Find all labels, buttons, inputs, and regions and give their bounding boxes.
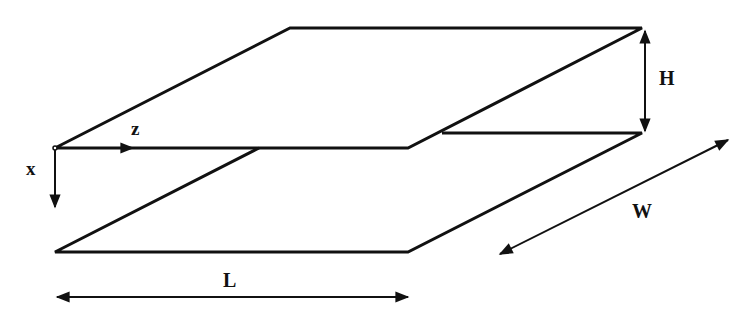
- parallel-plate-diagram: z x H W L: [0, 0, 755, 314]
- dimension-arrows: [57, 31, 728, 297]
- height-label: H: [659, 67, 675, 90]
- x-axis-label: x: [26, 158, 36, 180]
- width-label: W: [632, 200, 652, 223]
- top-plate: [55, 28, 642, 148]
- length-label: L: [223, 269, 236, 292]
- axes: [53, 146, 133, 207]
- width-arrow: [500, 140, 728, 254]
- bottom-plate: [55, 133, 642, 252]
- z-axis-label: z: [131, 118, 139, 140]
- diagram-graphics: [0, 0, 755, 314]
